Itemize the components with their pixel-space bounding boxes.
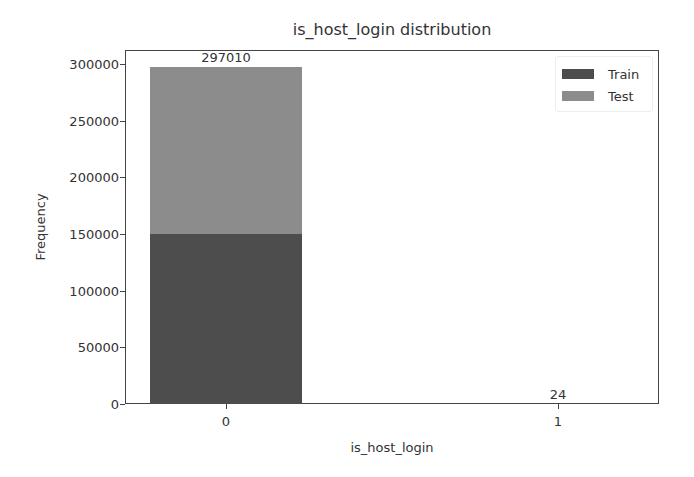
x-tick-label: 1 <box>554 414 562 429</box>
y-tick-label: 200000 <box>69 170 119 185</box>
legend: Train Test <box>555 56 653 112</box>
y-tick-mark <box>120 121 125 122</box>
chart-title: is_host_login distribution <box>125 20 659 39</box>
y-tick-mark <box>120 404 125 405</box>
y-tick-mark <box>120 177 125 178</box>
legend-swatch-train <box>562 69 594 79</box>
y-tick-label: 0 <box>111 397 119 412</box>
bar-test-0 <box>150 67 302 234</box>
x-axis-label: is_host_login <box>125 440 659 455</box>
y-tick-label: 300000 <box>69 57 119 72</box>
bar-train-0 <box>150 234 302 404</box>
y-tick-label: 250000 <box>69 113 119 128</box>
legend-swatch-test <box>562 91 594 101</box>
y-tick-label: 150000 <box>69 227 119 242</box>
legend-label: Test <box>608 89 634 104</box>
y-axis-label: Frequency <box>33 193 48 260</box>
bar-total-label: 297010 <box>201 50 251 65</box>
y-tick-mark <box>120 347 125 348</box>
bar-total-label: 24 <box>550 387 567 402</box>
y-tick-mark <box>120 64 125 65</box>
y-tick-mark <box>120 234 125 235</box>
x-tick-mark <box>226 404 227 409</box>
y-tick-label: 100000 <box>69 283 119 298</box>
x-tick-mark <box>558 404 559 409</box>
legend-item-train: Train <box>562 65 639 83</box>
legend-item-test: Test <box>562 87 634 105</box>
y-tick-label: 50000 <box>78 340 119 355</box>
y-tick-mark <box>120 291 125 292</box>
legend-label: Train <box>608 67 639 82</box>
x-tick-label: 0 <box>222 414 230 429</box>
